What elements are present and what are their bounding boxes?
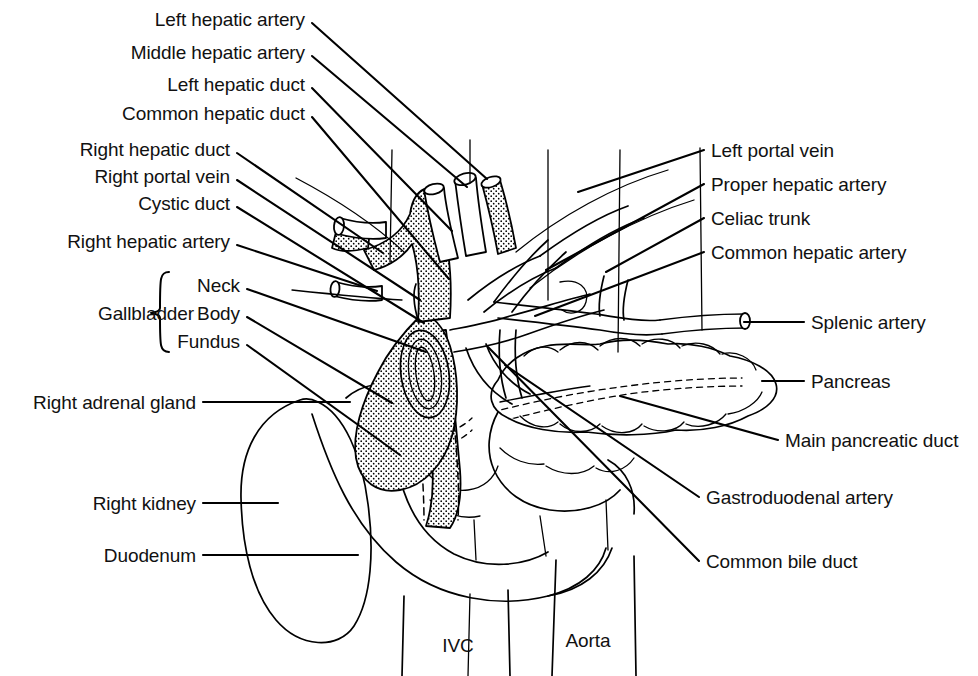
leader-cystic-duct: [237, 207, 424, 323]
leader-common-bile-duct: [488, 347, 699, 561]
leader-celiac-trunk: [606, 218, 704, 272]
label-right-adrenal-gland: Right adrenal gland: [33, 393, 196, 412]
leader-left-hepatic-artery: [312, 23, 487, 179]
label-main-pancreatic-duct: Main pancreatic duct: [785, 431, 958, 450]
label-middle-hepatic-artery: Middle hepatic artery: [131, 43, 305, 62]
label-gallbladder-body: Body: [197, 304, 240, 323]
label-gallbladder-neck: Neck: [197, 276, 240, 295]
leader-gallbladder-neck: [247, 289, 426, 352]
label-right-hepatic-artery: Right hepatic artery: [67, 232, 230, 251]
label-right-portal-vein: Right portal vein: [94, 167, 230, 186]
label-duodenum: Duodenum: [104, 546, 196, 565]
leader-left-hepatic-duct: [312, 88, 452, 231]
label-celiac-trunk: Celiac trunk: [711, 209, 810, 228]
label-proper-hepatic-artery: Proper hepatic artery: [711, 175, 886, 194]
label-left-portal-vein: Left portal vein: [711, 141, 834, 160]
label-common-hepatic-artery: Common hepatic artery: [711, 243, 906, 262]
label-cystic-duct: Cystic duct: [138, 194, 230, 213]
label-pancreas: Pancreas: [811, 372, 890, 391]
leader-right-hepatic-duct: [237, 153, 383, 253]
label-splenic-artery: Splenic artery: [811, 313, 926, 332]
leader-proper-hepatic-artery: [546, 184, 704, 270]
caption-strip: [0, 664, 978, 676]
label-left-hepatic-duct: Left hepatic duct: [167, 75, 305, 94]
label-common-hepatic-duct: Common hepatic duct: [122, 104, 305, 123]
label-common-bile-duct: Common bile duct: [706, 552, 858, 571]
label-gastroduodenal-artery: Gastroduodenal artery: [706, 488, 893, 507]
aorta-vessel: [552, 556, 636, 676]
label-left-hepatic-artery: Left hepatic artery: [155, 10, 305, 29]
label-gallbladder-group: Gallbladder: [98, 304, 194, 323]
label-gallbladder-fundus: Fundus: [177, 332, 240, 351]
anatomy-figure: Left hepatic arteryMiddle hepatic artery…: [0, 0, 978, 676]
leader-left-portal-vein: [578, 150, 704, 192]
celiac-axis-vessels: [292, 140, 750, 402]
label-right-hepatic-duct: Right hepatic duct: [80, 140, 230, 159]
pancreas-body: [489, 339, 777, 512]
label-aorta: Aorta: [566, 631, 611, 650]
label-right-kidney: Right kidney: [93, 494, 196, 513]
anatomy-illustration: [0, 0, 978, 676]
leader-right-hepatic-artery: [237, 245, 377, 291]
label-ivc: IVC: [442, 636, 473, 655]
right-kidney-outline: [241, 399, 371, 643]
